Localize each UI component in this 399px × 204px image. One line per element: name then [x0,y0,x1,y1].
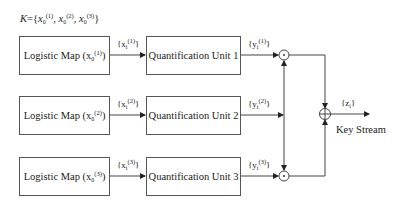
z-seq-label: {zi} [341,98,355,109]
key-stream-label: Key Stream [336,124,386,135]
logistic-map-label-2: Logistic Map (x0(2)) [24,109,106,122]
multiply-dot-icon-3 [283,175,285,177]
multiply-dot-icon-1 [283,54,285,56]
quantification-unit-label-2: Quantification Unit 2 [149,110,239,121]
row-3: Logistic Map (x0(3)) {xi(3)} Quantificat… [20,158,290,196]
row-2: Logistic Map (x0(2)) {xi(2)} Quantificat… [20,97,284,135]
quantification-unit-label-3: Quantification Unit 3 [149,171,239,182]
x-seq-label-3: {xi(3)} [117,158,139,171]
diagram-canvas: K={x0(1), x0(2), x0(3)} Logistic Map (x0… [0,0,399,204]
y-seq-label-3: {yi(3)} [248,158,270,171]
arrow-node1-to-xor [289,55,325,108]
xor-node [320,109,331,120]
row-1: Logistic Map (x0(1)) {xi(1)} Quantificat… [20,37,290,75]
x-seq-label-1: {xi(1)} [117,37,139,50]
key-label: K={x0(1), x0(2), x0(3)} [19,12,99,25]
logistic-map-label-3: Logistic Map (x0(3)) [24,170,106,183]
y-seq-label-2: {yi(2)} [248,97,270,110]
x-seq-label-2: {xi(2)} [117,97,139,110]
logistic-map-label-1: Logistic Map (x0(1)) [24,49,106,62]
arrow-node3-to-xor [289,120,325,176]
quantification-unit-label-1: Quantification Unit 1 [149,50,239,61]
y-seq-label-1: {yi(1)} [248,37,270,50]
